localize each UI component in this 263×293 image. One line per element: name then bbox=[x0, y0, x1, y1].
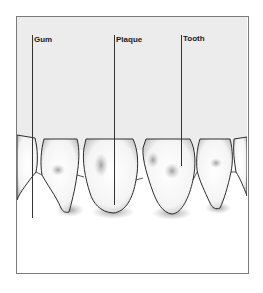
tooth-1 bbox=[17, 135, 37, 200]
gum-label: Gum bbox=[34, 35, 52, 44]
tooth-5 bbox=[197, 139, 233, 209]
tooth-3 bbox=[83, 139, 137, 213]
tooth-label: Tooth bbox=[183, 34, 205, 43]
plaque-label: Plaque bbox=[116, 35, 142, 44]
tooth-6 bbox=[234, 137, 247, 196]
